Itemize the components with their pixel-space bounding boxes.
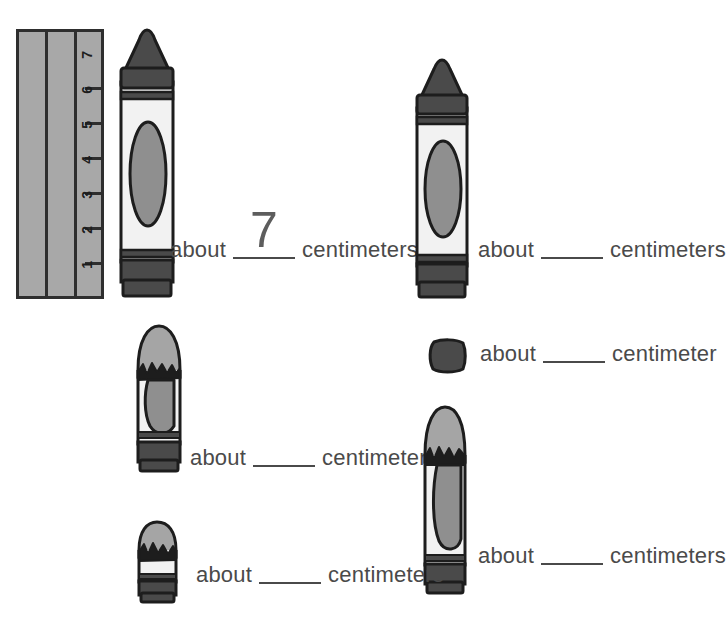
prompt-word-6: about [196,562,252,588]
crayon-stub-tiny-right [424,336,472,378]
answer-line-item-1: about 7 centimeters [170,237,418,263]
answer-line-item-5: about centimeters [478,543,726,569]
prompt-word-5: about [478,543,534,569]
prompt-word-2: about [478,237,534,263]
ruler-rail-inner [45,32,48,296]
unit-word-4: centimeter [612,341,717,367]
ruler-tick-label-4: 4 [80,156,94,164]
ruler-tick-label-5: 5 [80,121,94,129]
answer-blank-5[interactable] [541,545,603,565]
prompt-word-1: about [170,237,226,263]
ruler-tick-label-7: 7 [80,51,94,59]
crayon-stub-short-left [128,518,188,606]
answer-line-item-3: about centimeters [190,445,438,471]
unit-word-6: centimeters [328,562,444,588]
crayon-full-tall-right [408,56,476,304]
ruler-tick-label-2: 2 [80,226,94,234]
unit-word-1: centimeters [302,237,418,263]
ruler-tick-label-3: 3 [80,191,94,199]
answer-blank-6[interactable] [259,564,321,584]
answer-blank-1[interactable]: 7 [233,239,295,259]
crayon-worn-medium-left [126,322,194,474]
prompt-word-3: about [190,445,246,471]
unit-word-5: centimeters [610,543,726,569]
ruler-scale: 1 2 3 4 5 6 7 [77,32,101,296]
answer-blank-4[interactable] [543,343,605,363]
answer-line-item-6: about centimeters [196,562,444,588]
prompt-word-4: about [480,341,536,367]
answer-blank-3[interactable] [253,447,315,467]
answer-blank-2[interactable] [541,239,603,259]
ruler-tick-label-1: 1 [80,261,94,269]
centimeter-ruler: 1 2 3 4 5 6 7 [16,29,104,299]
answer-line-item-4: about centimeter [480,341,717,367]
answer-line-item-2: about centimeters [478,237,726,263]
ruler-tick-label-6: 6 [80,86,94,94]
handwritten-answer-1: 7 [250,205,278,255]
unit-word-2: centimeters [610,237,726,263]
